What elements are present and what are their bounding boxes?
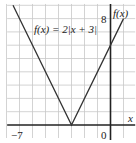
y-axis-label: f(x) — [113, 7, 129, 20]
x-axis-label: x — [127, 112, 133, 124]
y-tick-label-8: 8 — [101, 13, 107, 25]
function-label: f(x) = 2|x + 3| — [34, 23, 97, 36]
x-tick-label-minus-7: −7 — [11, 129, 23, 141]
chart: f(x) = 2|x + 3| f(x) x 8 −7 0 — [0, 0, 136, 143]
origin-label: 0 — [101, 129, 107, 141]
